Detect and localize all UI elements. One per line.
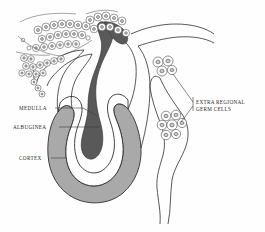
extra-regional-germ-cells-label-line1: EXTRA REGIONAL <box>196 99 245 105</box>
medulla-label: MEDULLA <box>19 105 47 111</box>
diagram-canvas: MEDULLA ALBUGINEA CORTEX EXTRA REGIONAL … <box>0 0 265 232</box>
extra-regional-germ-cells-label-line2: GERM CELLS <box>196 106 231 112</box>
albuginea-label: ALBUGINEA <box>13 124 46 130</box>
gonad-development-figure: MEDULLA ALBUGINEA CORTEX EXTRA REGIONAL … <box>0 0 265 232</box>
cortex-label: CORTEX <box>19 155 42 161</box>
